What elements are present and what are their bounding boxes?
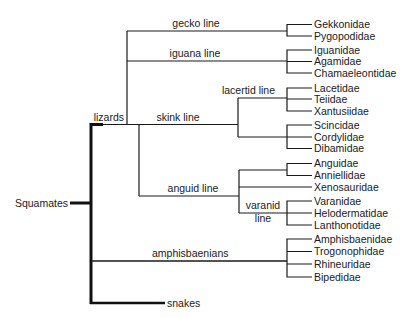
label-anguid-line: anguid line — [168, 182, 219, 194]
taxon-iguanidae: Iguanidae — [314, 44, 360, 56]
label-lacertid-line: lacertid line — [222, 84, 275, 96]
taxon-xenosauridae: Xenosauridae — [314, 181, 379, 193]
label-gecko-line: gecko line — [172, 17, 219, 29]
taxon-labels: Gekkonidae Pygopodidae Iguanidae Agamida… — [314, 18, 396, 283]
label-varanid-line-1: varanid — [246, 199, 281, 211]
label-varanid-line-2: line — [255, 212, 272, 224]
taxon-anniellidae: Anniellidae — [314, 169, 366, 181]
skink-subclades — [238, 98, 287, 137]
taxon-chamaeleontidae: Chamaeleontidae — [314, 67, 396, 79]
label-squamates: Squamates — [15, 197, 68, 209]
taxon-dibamidae: Dibamidae — [314, 142, 364, 154]
taxon-amphisbaenidae: Amphisbaenidae — [314, 233, 392, 245]
taxon-lacetidae: Lacetidae — [314, 82, 360, 94]
label-snakes: snakes — [167, 297, 200, 309]
taxon-gekkonidae: Gekkonidae — [314, 18, 370, 30]
taxon-agamidae: Agamidae — [314, 55, 361, 67]
label-lizards: lizards — [94, 111, 124, 123]
varanid-bracket — [287, 201, 312, 225]
taxon-pygopodidae: Pygopodidae — [314, 30, 375, 42]
taxon-cordylidae: Cordylidae — [314, 131, 364, 143]
label-amphisbaenians: amphisbaenians — [152, 247, 228, 259]
taxon-anguidae: Anguidae — [314, 157, 359, 169]
taxon-scincidae: Scincidae — [314, 119, 360, 131]
taxon-bipedidae: Bipedidae — [314, 271, 361, 283]
label-skink-line: skink line — [156, 111, 199, 123]
label-iguana-line: iguana line — [170, 47, 221, 59]
iguana-bracket — [287, 50, 312, 73]
gecko-bracket — [287, 25, 312, 37]
taxon-varanidae: Varanidae — [314, 195, 361, 207]
anguidae-bracket — [287, 164, 312, 176]
taxon-helodermatidae: Helodermatidae — [314, 207, 388, 219]
amphisbaenian-bracket — [287, 239, 312, 277]
taxon-xantusiidae: Xantusiidae — [314, 105, 369, 117]
scincid-bracket — [287, 125, 312, 149]
taxon-teiidae: Teiidae — [314, 93, 347, 105]
lacertid-bracket — [287, 88, 312, 111]
taxon-trogonophidae: Trogonophidae — [314, 245, 384, 257]
taxon-rhineuridae: Rhineuridae — [314, 258, 371, 270]
taxon-lanthonotidae: Lanthonotidae — [314, 219, 381, 231]
terminal-brackets — [287, 25, 312, 278]
squamate-phylogeny-tree: Squamates lizards gecko line iguana line… — [0, 0, 416, 317]
